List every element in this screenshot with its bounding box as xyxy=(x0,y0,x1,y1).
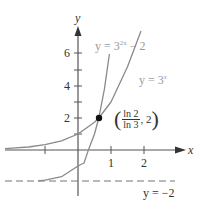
x-tick-label-2: 2 xyxy=(141,157,147,169)
fraction-numerator: ln 2 xyxy=(122,109,139,120)
intersection-point-label: ( ln 2 ln 3 , 2 ) xyxy=(114,108,159,130)
x-axis-label: x xyxy=(188,144,193,156)
curve-label-suffix: − 2 xyxy=(127,39,146,53)
chart-canvas xyxy=(0,0,202,212)
curve-label-base: y = 3 xyxy=(139,73,164,87)
x-tick-label-1: 1 xyxy=(108,157,114,169)
curve-label-exponent: x xyxy=(164,73,167,81)
curve-label-exponent: 2x xyxy=(120,39,127,47)
curve-label-3-to-x: y = 3x xyxy=(139,74,167,86)
fraction-denominator: ln 3 xyxy=(123,120,138,130)
curve-label-3-to-2x-minus-2: y = 32x − 2 xyxy=(95,40,146,52)
left-paren: ( xyxy=(114,108,121,130)
curve-label-base: y = 3 xyxy=(95,39,120,53)
intersection-point xyxy=(96,115,102,121)
point-y-value: , 2 xyxy=(141,113,152,125)
y-tick-label-6: 6 xyxy=(64,47,70,59)
y-axis-arrow-icon xyxy=(75,26,82,36)
y-tick-label-2: 2 xyxy=(64,112,70,124)
x-axis-arrow-icon xyxy=(175,147,186,154)
fraction: ln 2 ln 3 xyxy=(122,109,139,130)
asymptote-label: y = −2 xyxy=(143,187,175,199)
y-tick-label-4: 4 xyxy=(64,80,70,92)
y-axis-label: y xyxy=(75,12,80,24)
right-paren: ) xyxy=(152,108,159,130)
